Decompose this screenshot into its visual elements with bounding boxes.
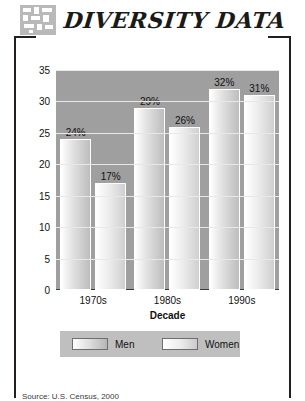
figure-header: DIVERSITY DATA <box>0 0 305 40</box>
bar-value-label: 26% <box>175 115 195 126</box>
bar-group: 24%17% <box>60 70 126 290</box>
y-axis-tick-label: 20 <box>39 159 50 170</box>
x-axis-tick-label: 1970s <box>80 295 107 306</box>
bar-groups: 24%17%29%26%32%31% <box>56 70 279 290</box>
legend-swatch-men <box>72 338 108 350</box>
bar-slot: 24% <box>60 70 91 290</box>
y-axis-tick-mark <box>51 227 56 228</box>
y-axis-tick-mark <box>51 290 56 291</box>
y-axis-tick-mark <box>51 196 56 197</box>
y-axis-tick-label: 5 <box>44 253 50 264</box>
y-axis-tick-mark <box>51 259 56 260</box>
gridline <box>56 227 279 228</box>
bar-value-label: 31% <box>249 83 269 94</box>
bar-group: 32%31% <box>209 70 275 290</box>
gridline <box>56 164 279 165</box>
frame-right-border <box>289 36 291 398</box>
bar-men-1980s[interactable]: 29% <box>134 108 165 290</box>
legend-label-women: Women <box>205 339 239 350</box>
x-axis-tick-label: 1990s <box>228 295 255 306</box>
gridline <box>56 101 279 102</box>
y-axis-tick-label: 15 <box>39 190 50 201</box>
x-axis-title: Decade <box>56 310 279 321</box>
legend-swatch-women <box>162 338 198 350</box>
bar-men-1970s[interactable]: 24% <box>60 139 91 290</box>
gridline <box>56 259 279 260</box>
y-axis-tick-mark <box>51 164 56 165</box>
chart-plot-area: 24%17%29%26%32%31% 051015202530351970s19… <box>56 70 279 290</box>
bar-women-1980s[interactable]: 26% <box>169 127 200 290</box>
gridline <box>56 70 279 71</box>
legend-label-men: Men <box>115 339 134 350</box>
y-axis-tick-label: 25 <box>39 127 50 138</box>
bar-slot: 31% <box>244 70 275 290</box>
bar-group: 29%26% <box>134 70 200 290</box>
y-axis-tick-label: 35 <box>39 65 50 76</box>
bar-men-1990s[interactable]: 32% <box>209 89 240 290</box>
legend-item-men[interactable]: Men <box>60 338 150 350</box>
bar-women-1970s[interactable]: 17% <box>95 183 126 290</box>
bar-slot: 26% <box>169 70 200 290</box>
chart-legend: Men Women <box>60 331 240 357</box>
y-axis-tick-label: 10 <box>39 222 50 233</box>
y-axis-tick-mark <box>51 133 56 134</box>
y-axis-tick-label: 30 <box>39 96 50 107</box>
gridline <box>56 133 279 134</box>
x-axis-tick-label: 1980s <box>154 295 181 306</box>
bar-slot: 29% <box>134 70 165 290</box>
y-axis-tick-mark <box>51 101 56 102</box>
y-axis-tick-label: 0 <box>44 285 50 296</box>
diversity-data-figure: DIVERSITY DATA Percent of 20- to 40-year… <box>0 0 305 401</box>
gridline <box>56 196 279 197</box>
bar-slot: 32% <box>209 70 240 290</box>
bar-women-1990s[interactable]: 31% <box>244 95 275 290</box>
legend-item-women[interactable]: Women <box>150 338 240 350</box>
bar-slot: 17% <box>95 70 126 290</box>
bar-value-label: 32% <box>214 77 234 88</box>
figure-caption: Source: U.S. Census, 2000 <box>22 392 284 401</box>
figure-title: DIVERSITY DATA <box>62 7 286 33</box>
frame-left-border <box>14 36 16 398</box>
bar-value-label: 17% <box>101 171 121 182</box>
mosaic-tile-icon <box>20 5 56 35</box>
y-axis-tick-mark <box>51 70 56 71</box>
